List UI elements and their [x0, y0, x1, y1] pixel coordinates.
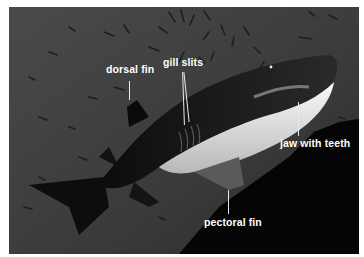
- label-pectoral-fin: pectoral fin: [204, 217, 262, 228]
- dorsal-fin-leader-line: [129, 81, 130, 100]
- pectoral-fin-leader-line: [228, 190, 229, 214]
- shark-illustration: [9, 7, 359, 254]
- label-dorsal-fin: dorsal fin: [106, 64, 154, 75]
- label-jaw-with-teeth: jaw with teeth: [280, 138, 350, 149]
- jaw-leader-line: [298, 102, 299, 136]
- shark-photo: [9, 7, 359, 254]
- label-gill-slits: gill slits: [163, 57, 203, 68]
- shark-eye: [270, 66, 273, 69]
